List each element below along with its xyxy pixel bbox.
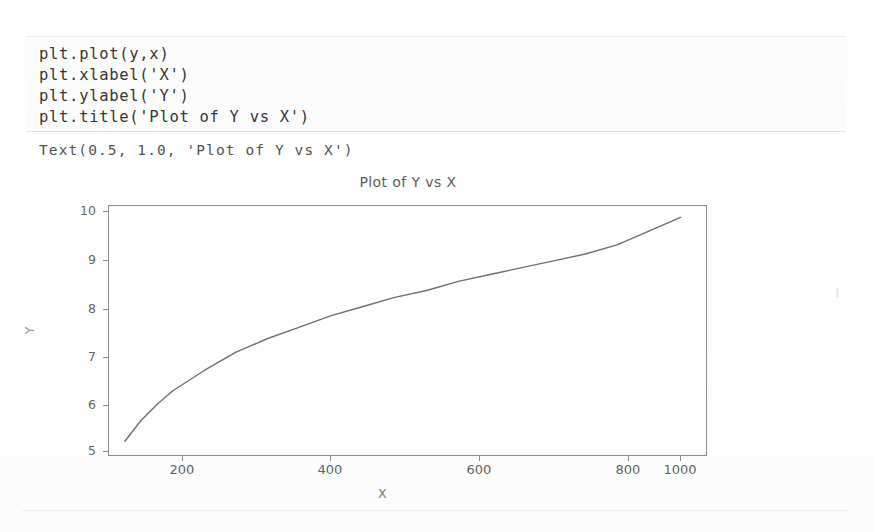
line-series-curve (109, 206, 706, 455)
y-axis-label: Y (22, 327, 37, 335)
x-tick-label: 400 (300, 462, 360, 477)
code-line-1: plt.plot(y,x) (39, 44, 846, 65)
series-line (125, 217, 681, 441)
x-tick-label: 200 (152, 462, 212, 477)
x-tick-mark (628, 456, 629, 461)
cell-output-text: Text(0.5, 1.0, 'Plot of Y vs X') (39, 142, 354, 158)
x-tick-label: 600 (449, 462, 509, 477)
y-tick-label: 7 (62, 349, 96, 364)
y-tick-label: 8 (62, 301, 96, 316)
x-tick-label: 800 (598, 462, 658, 477)
x-tick-label: 1000 (650, 462, 710, 477)
y-tick-label: 10 (62, 203, 96, 218)
scan-artifact (836, 288, 839, 298)
plot-axes-frame (108, 205, 707, 456)
y-tick-label: 9 (62, 252, 96, 267)
x-tick-mark (680, 456, 681, 461)
code-cell[interactable]: plt.plot(y,x) plt.xlabel('X') plt.ylabel… (26, 36, 846, 132)
code-line-2: plt.xlabel('X') (39, 65, 846, 86)
x-axis-label: X (378, 486, 387, 501)
x-tick-mark (182, 456, 183, 461)
matplotlib-figure: Plot of Y vs X Y 1098765 200400600800100… (0, 168, 780, 498)
x-tick-mark (330, 456, 331, 461)
x-tick-mark (479, 456, 480, 461)
y-tick-label: 5 (62, 443, 96, 458)
code-line-3: plt.ylabel('Y') (39, 86, 846, 107)
code-line-4: plt.title('Plot of Y vs X') (39, 107, 846, 128)
chart-title: Plot of Y vs X (108, 174, 708, 190)
y-tick-label: 6 (62, 397, 96, 412)
page-divider-rule (22, 510, 848, 511)
